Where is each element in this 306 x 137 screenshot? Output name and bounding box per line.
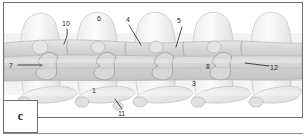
spine-illustration xyxy=(4,3,302,117)
figure-bottom-rule xyxy=(3,133,303,134)
callout-10: 10 xyxy=(62,20,70,27)
callout-3: 3 xyxy=(192,80,196,87)
callout-4: 4 xyxy=(126,16,130,23)
callout-5: 5 xyxy=(177,17,181,24)
callout-12: 12 xyxy=(270,64,278,71)
callout-1: 1 xyxy=(92,87,96,94)
figure-image-frame xyxy=(3,2,303,118)
figure-panel-c: 10 6 4 5 7 8 12 3 1 11 c xyxy=(0,0,306,137)
callout-6: 6 xyxy=(97,15,101,22)
callout-8: 8 xyxy=(206,63,210,70)
callout-7: 7 xyxy=(9,62,13,69)
panel-letter: c xyxy=(3,100,38,133)
callout-11: 11 xyxy=(118,110,125,117)
